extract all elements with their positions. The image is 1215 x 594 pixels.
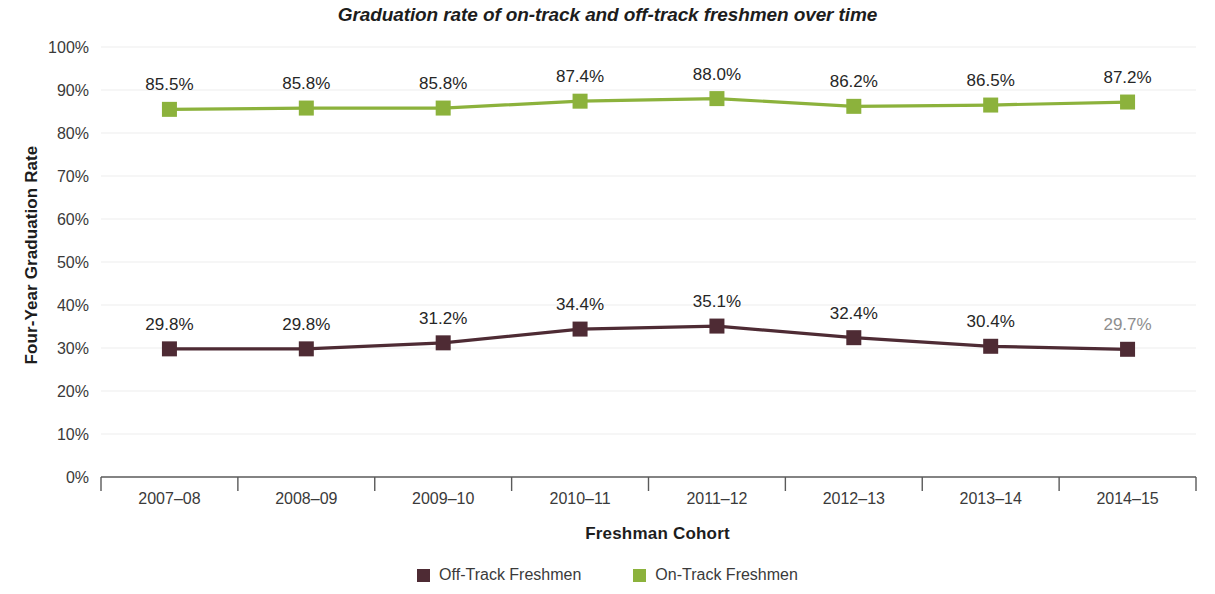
data-point-marker[interactable] xyxy=(436,335,451,350)
x-tick-label: 2012–13 xyxy=(823,490,885,507)
data-point-label: 85.8% xyxy=(282,74,330,93)
data-point-label: 85.5% xyxy=(145,75,193,94)
data-point-label: 87.4% xyxy=(556,67,604,86)
y-tick-label: 80% xyxy=(57,125,89,142)
data-point-label: 29.7% xyxy=(1103,315,1151,334)
data-point-marker[interactable] xyxy=(846,99,861,114)
data-point-label: 86.2% xyxy=(830,72,878,91)
data-point-marker[interactable] xyxy=(299,341,314,356)
x-tick-label: 2014–15 xyxy=(1096,490,1158,507)
data-point-label: 88.0% xyxy=(693,65,741,84)
legend-item[interactable]: Off-Track Freshmen xyxy=(417,566,581,584)
data-point-marker[interactable] xyxy=(162,102,177,117)
chart-figure: Graduation rate of on-track and off-trac… xyxy=(0,0,1215,594)
chart-legend: Off-Track FreshmenOn-Track Freshmen xyxy=(0,566,1215,584)
data-point-marker[interactable] xyxy=(436,101,451,116)
x-tick-label: 2009–10 xyxy=(412,490,474,507)
x-tick-label: 2010–11 xyxy=(550,490,611,507)
x-axis-title: Freshman Cohort xyxy=(100,524,1215,544)
data-point-marker[interactable] xyxy=(162,341,177,356)
data-point-marker[interactable] xyxy=(983,98,998,113)
data-point-label: 30.4% xyxy=(967,312,1015,331)
y-tick-label: 20% xyxy=(57,383,89,400)
data-point-label: 29.8% xyxy=(282,315,330,334)
data-point-label: 87.2% xyxy=(1103,68,1151,87)
data-point-label: 34.4% xyxy=(556,295,604,314)
y-tick-label: 10% xyxy=(57,426,89,443)
data-point-marker[interactable] xyxy=(573,322,588,337)
y-tick-label: 100% xyxy=(48,39,89,56)
legend-item-label: Off-Track Freshmen xyxy=(439,566,581,584)
y-tick-label: 0% xyxy=(66,469,89,486)
data-point-marker[interactable] xyxy=(299,101,314,116)
data-point-marker[interactable] xyxy=(709,319,724,334)
legend-swatch-icon xyxy=(417,569,430,582)
data-point-marker[interactable] xyxy=(1120,342,1135,357)
data-point-marker[interactable] xyxy=(846,330,861,345)
x-tick-label: 2007–08 xyxy=(138,490,200,507)
y-tick-label: 50% xyxy=(57,254,89,271)
data-point-label: 35.1% xyxy=(693,292,741,311)
x-tick-label: 2011–12 xyxy=(686,490,747,507)
legend-item[interactable]: On-Track Freshmen xyxy=(633,566,798,584)
legend-item-label: On-Track Freshmen xyxy=(655,566,798,584)
data-point-marker[interactable] xyxy=(573,94,588,109)
data-point-label: 32.4% xyxy=(830,304,878,323)
plot-area: 0%10%20%30%40%50%60%70%80%90%100%2007–08… xyxy=(0,0,1215,594)
y-tick-label: 40% xyxy=(57,297,89,314)
y-tick-label: 60% xyxy=(57,211,89,228)
legend-swatch-icon xyxy=(633,569,646,582)
y-tick-label: 90% xyxy=(57,82,89,99)
x-tick-label: 2013–14 xyxy=(960,490,1022,507)
data-point-label: 85.8% xyxy=(419,74,467,93)
x-tick-label: 2008–09 xyxy=(275,490,337,507)
data-point-marker[interactable] xyxy=(983,339,998,354)
y-tick-label: 70% xyxy=(57,168,89,185)
data-point-marker[interactable] xyxy=(709,91,724,106)
data-point-label: 29.8% xyxy=(145,315,193,334)
data-point-label: 86.5% xyxy=(967,71,1015,90)
data-point-marker[interactable] xyxy=(1120,95,1135,110)
data-point-label: 31.2% xyxy=(419,309,467,328)
y-tick-label: 30% xyxy=(57,340,89,357)
